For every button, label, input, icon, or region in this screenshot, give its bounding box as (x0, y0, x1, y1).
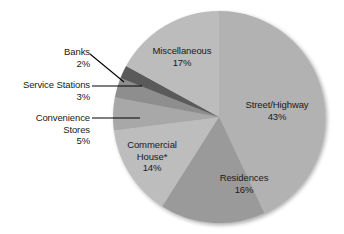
slice-label-residences: Residences 16% (208, 172, 280, 195)
slice-label-residences-name: Residences (208, 172, 280, 184)
slice-label-convenience-stores-name-2: Stores (6, 124, 90, 136)
slice-label-miscellaneous: Miscellaneous 17% (140, 45, 224, 68)
slice-label-banks-name: Banks (16, 46, 90, 58)
slice-label-convenience-stores-name-1: Convenience (6, 112, 90, 124)
slice-label-convenience-stores-percent: 5% (6, 135, 90, 147)
slice-label-commercial-house-name-2: House* (116, 151, 188, 163)
slice-label-commercial-house: Commercial House* 14% (116, 139, 188, 174)
slice-label-banks: Banks 2% (16, 46, 90, 69)
slice-label-service-stations: Service Stations 3% (2, 79, 90, 102)
slice-label-miscellaneous-name: Miscellaneous (140, 45, 224, 57)
slice-label-banks-percent: 2% (16, 58, 90, 70)
leader-line-banks (90, 54, 124, 82)
slice-label-commercial-house-name-1: Commercial (116, 139, 188, 151)
slice-label-convenience-stores: Convenience Stores 5% (6, 112, 90, 147)
slice-label-service-stations-name: Service Stations (2, 79, 90, 91)
slice-label-street-highway: Street/Highway 43% (234, 99, 320, 122)
pie-chart-figure: Banks 2% Service Stations 3% Convenience… (0, 0, 344, 234)
slice-label-street-highway-percent: 43% (234, 111, 320, 123)
slice-label-miscellaneous-percent: 17% (140, 57, 224, 69)
slice-label-street-highway-name: Street/Highway (234, 99, 320, 111)
slice-label-commercial-house-percent: 14% (116, 162, 188, 174)
slice-label-service-stations-percent: 3% (2, 91, 90, 103)
slice-label-residences-percent: 16% (208, 184, 280, 196)
